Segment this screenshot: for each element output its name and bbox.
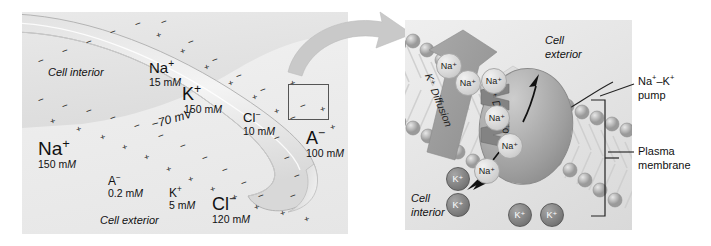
ion-group-cl-exterior: Cl− 120 mM <box>212 194 250 226</box>
ion-k-interior-4[interactable]: K⁺ <box>540 203 564 227</box>
ion-conc-cl-interior: 10 mM <box>243 126 275 138</box>
magnified-region-box[interactable] <box>288 84 329 120</box>
ion-k-interior-1[interactable]: K⁺ <box>446 167 470 191</box>
ion-k-interior-3[interactable]: K⁺ <box>508 203 532 227</box>
label-cell-interior-closeup: Cell interior <box>411 192 445 220</box>
ion-label-cl-exterior: Cl− <box>212 194 250 214</box>
ion-label-na-interior: Na+ <box>149 60 181 77</box>
ion-label-k-exterior: K+ <box>169 187 195 200</box>
ion-group-a-exterior: A− 0.2 mM <box>108 175 143 200</box>
ion-label-a-exterior: A− <box>108 175 143 188</box>
ion-conc-cl-exterior: 120 mM <box>212 214 250 226</box>
label-cell-interior-line1: Cell <box>411 192 445 206</box>
ion-na-pump-2[interactable]: Na⁺ <box>497 133 523 159</box>
ion-na-exterior-2[interactable]: Na⁺ <box>455 70 481 96</box>
ion-na-pump-3[interactable]: Na⁺ <box>474 158 500 184</box>
ion-conc-a-exterior: 0.2 mM <box>108 188 143 200</box>
ion-na-pump-1[interactable]: Na⁺ <box>484 105 510 131</box>
ion-conc-na-exterior: 150 mM <box>38 159 76 171</box>
ion-label-k-interior: K+ <box>182 84 222 104</box>
ion-conc-a-interior: 100 mM <box>306 148 344 160</box>
label-cell-interior: Cell interior <box>48 66 104 78</box>
ion-label-cl-interior: Cl− <box>243 111 275 126</box>
callout-leader-lines <box>600 60 650 180</box>
ion-group-k-exterior: K+ 5 mM <box>169 187 195 212</box>
ion-group-cl-interior: Cl− 10 mM <box>243 111 275 137</box>
ion-na-exterior-3[interactable]: Na⁺ <box>481 68 507 94</box>
right-panel-membrane-closeup: K⁺ Diffusion Na⁺ Diffusion Na⁺ Na⁺ Na⁺ N… <box>405 20 632 230</box>
ion-conc-k-exterior: 5 mM <box>169 200 195 212</box>
ion-group-na-exterior: Na+ 150 mM <box>38 138 76 171</box>
label-cell-exterior-closeup: Cell exterior <box>545 34 582 62</box>
label-cell-exterior: Cell exterior <box>100 214 159 226</box>
ion-group-na-interior: Na+ 15 mM <box>149 60 181 89</box>
ion-k-interior-2[interactable]: K⁺ <box>446 193 470 217</box>
label-cell-interior-line2: interior <box>411 206 445 220</box>
ion-label-na-exterior: Na+ <box>38 138 76 159</box>
label-cell-exterior-line1: Cell <box>545 34 582 48</box>
magnification-arrow <box>280 8 420 80</box>
ion-label-a-interior: A− <box>306 128 344 148</box>
pump-leader-line <box>600 84 634 96</box>
figure-canvas: – – – – – – – – – – – – – – – – – – – – … <box>0 0 711 246</box>
ion-group-a-interior: A− 100 mM <box>306 128 344 160</box>
ion-conc-na-interior: 15 mM <box>149 77 181 89</box>
label-cell-exterior-line2: exterior <box>545 48 582 62</box>
